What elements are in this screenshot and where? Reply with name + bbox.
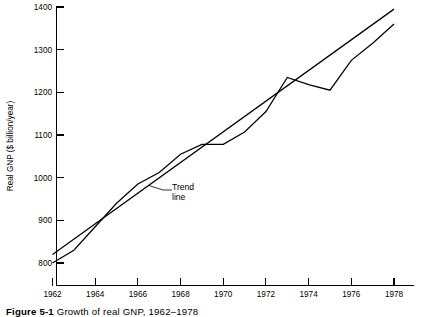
y-axis-title: Real GNP ($ billion/year)	[6, 101, 15, 192]
xtick-label-1972: 1972	[257, 290, 276, 299]
ytick-label-800: 800	[38, 259, 52, 268]
xtick-label-1978: 1978	[385, 290, 404, 299]
series-line-real-gnp	[53, 24, 395, 263]
figure-caption-body: Growth of real GNP, 1962–1978	[57, 306, 199, 317]
gnp-line-chart: 1400 1300 1200 1100 1000 900 800 1962 19…	[0, 0, 423, 317]
xtick-label-1968: 1968	[171, 290, 190, 299]
ytick-label-1300: 1300	[34, 46, 53, 55]
ytick-label-1000: 1000	[34, 174, 53, 183]
ytick-label-900: 900	[38, 216, 52, 225]
figure-caption: Figure 5-1 Growth of real GNP, 1962–1978	[6, 306, 198, 317]
y-axis-ticks	[57, 7, 65, 263]
xtick-label-1962: 1962	[43, 290, 62, 299]
xtick-label-1970: 1970	[214, 290, 233, 299]
x-axis-ticks	[53, 278, 395, 286]
series-line-trend	[53, 9, 395, 254]
xtick-label-1976: 1976	[342, 290, 361, 299]
ytick-label-1200: 1200	[34, 88, 53, 97]
figure-caption-label: Figure 5-1	[6, 306, 54, 317]
xtick-label-1966: 1966	[129, 290, 148, 299]
figure-container: 1400 1300 1200 1100 1000 900 800 1962 19…	[0, 0, 423, 317]
trend-annotation-label-line1: Trend	[172, 182, 194, 192]
ytick-label-1100: 1100	[34, 131, 52, 140]
trend-annotation-leader-line	[149, 186, 172, 191]
trend-annotation-label-line2: line	[172, 192, 186, 202]
xtick-label-1964: 1964	[86, 290, 105, 299]
xtick-label-1974: 1974	[299, 290, 318, 299]
ytick-label-1400: 1400	[34, 3, 53, 12]
